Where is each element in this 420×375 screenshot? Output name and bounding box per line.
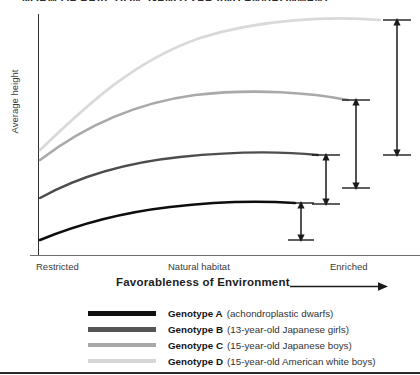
range-arrow-genotype-d (383, 18, 411, 157)
x-tick-enriched: Enriched (330, 261, 368, 272)
legend-item-genotype-a: Genotype A (achondroplastic dwarfs) (88, 305, 418, 321)
legend-swatch-genotype-d (88, 359, 156, 363)
figure-root: NORM OF REACTION: GENOTYPE AND ENVIRONME… (0, 0, 420, 375)
x-axis-label: Favorableness of Environment (116, 276, 290, 288)
legend-item-genotype-c: Genotype C (15-year-old Japanese boys) (88, 337, 418, 353)
legend-desc-genotype-c: (15-year-old Japanese boys) (227, 340, 352, 351)
curve-genotype-c (40, 92, 348, 160)
curve-genotype-a (40, 202, 295, 240)
curve-genotype-b (40, 153, 318, 198)
legend-label-genotype-a: Genotype A (168, 308, 223, 319)
legend-desc-genotype-d: (15-year-old American white boys) (227, 356, 376, 367)
legend-swatch-genotype-c (88, 343, 156, 347)
legend-desc-genotype-a: (achondroplastic dwarfs) (227, 308, 334, 319)
legend-item-genotype-d: Genotype D (15-year-old American white b… (88, 353, 418, 369)
legend-desc-genotype-b: (13-year-old Japanese girls) (227, 324, 349, 335)
legend-label-genotype-c: Genotype C (168, 340, 223, 351)
x-axis-direction-arrow (290, 282, 390, 291)
x-tick-restricted: Restricted (36, 261, 79, 272)
legend-item-genotype-b: Genotype B (13-year-old Japanese girls) (88, 321, 418, 337)
legend-label-genotype-d: Genotype D (168, 356, 223, 367)
range-arrow-genotype-c (342, 98, 370, 190)
range-arrow-genotype-b (312, 153, 340, 206)
legend-swatch-genotype-a (88, 311, 156, 316)
range-arrow-genotype-a (288, 201, 314, 242)
bottom-rule (0, 372, 420, 374)
x-tick-natural-habitat: Natural habitat (168, 261, 230, 272)
legend: Genotype A (achondroplastic dwarfs) Geno… (88, 305, 418, 369)
legend-swatch-genotype-b (88, 327, 156, 332)
curve-genotype-d (40, 18, 380, 150)
legend-label-genotype-b: Genotype B (168, 324, 223, 335)
